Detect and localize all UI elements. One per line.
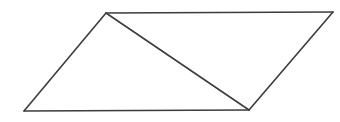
right-edge xyxy=(249,12,333,110)
diagonal-line xyxy=(106,13,249,110)
top-edge xyxy=(106,12,333,13)
left-edge xyxy=(24,13,106,111)
diagram-canvas xyxy=(0,0,340,122)
parallelogram-diagram xyxy=(0,0,340,122)
bottom-edge xyxy=(24,110,249,111)
